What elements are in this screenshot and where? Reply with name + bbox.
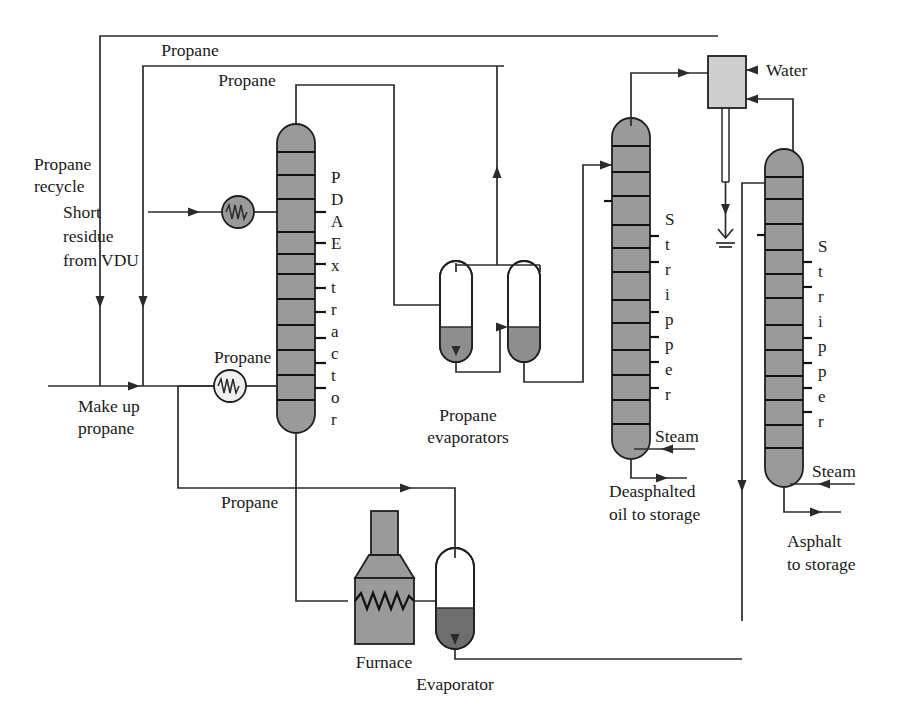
- arrow-left-stripper-right-overhead: [746, 95, 758, 104]
- label-propane-recycle-line2: recycle: [34, 176, 85, 196]
- label-short-residue-line2: residue: [63, 226, 114, 246]
- pipe-stripper-left-overhead: [631, 69, 708, 127]
- pda-letter-3: E: [331, 234, 341, 253]
- pipe-asphalt-feed-to-stripper: [738, 183, 766, 621]
- heat-exchanger-feed: [222, 196, 254, 228]
- label-water: Water: [766, 60, 808, 80]
- pda-letter-6: r: [331, 300, 337, 319]
- pipe-short-residue-feed: [148, 208, 277, 217]
- arrow-right-make-up-propane: [128, 382, 140, 391]
- pda-letter-0: P: [331, 168, 340, 187]
- stripper-left-letter-6: e: [665, 360, 673, 379]
- label-asphalt-line2: to storage: [787, 554, 856, 574]
- label-pda-extractor: P D A E x t r a c t o r: [331, 168, 344, 429]
- label-short-residue-line1: Short: [63, 202, 101, 222]
- pda-letter-4: x: [331, 256, 340, 275]
- label-make-up-propane-line2: propane: [78, 418, 135, 438]
- stripper-left-letter-5: p: [665, 335, 674, 354]
- pda-letter-9: t: [331, 366, 336, 385]
- stripper-right-letter-2: r: [818, 287, 824, 306]
- water-separator: [708, 56, 746, 247]
- pda-letter-2: A: [331, 212, 344, 231]
- stripper-right-letter-4: p: [818, 337, 827, 356]
- arrow-right-asphalt: [810, 508, 822, 517]
- arrow-left-water-inlet: [746, 66, 758, 75]
- label-deasphalted-oil-line2: oil to storage: [609, 504, 701, 524]
- label-short-residue-line3: from VDU: [63, 250, 139, 270]
- stripper-right-letter-6: e: [818, 387, 826, 406]
- stripper-right-letter-3: i: [818, 312, 823, 331]
- stripper-right-letter-5: p: [818, 362, 827, 381]
- label-stripper-left: S t r i p p e r: [665, 210, 674, 404]
- pda-letter-5: t: [331, 278, 336, 297]
- pda-letter-11: r: [331, 410, 337, 429]
- arrow-down-recycle-outer: [96, 296, 105, 308]
- arrow-right-stripper-feed: [600, 161, 612, 170]
- pipe-extractor-overhead: [296, 85, 440, 305]
- arrow-down-water-drain: [721, 204, 730, 215]
- pda-extractor-column: [277, 124, 326, 433]
- label-steam-right: Steam: [812, 461, 856, 481]
- heat-exchanger-propane: [214, 370, 246, 402]
- arrow-up-asphalt-feed: [738, 480, 747, 492]
- label-steam-left: Steam: [655, 426, 699, 446]
- pipe-evaporator-vapour-riser: [493, 66, 502, 265]
- stripper-left-column: [604, 118, 659, 459]
- process-flow-diagram: Propane Propane Propane recycle Short re…: [0, 0, 912, 724]
- pipe-extractor-bottom-outlet: [296, 432, 348, 601]
- label-deasphalted-oil-line1: Deasphalted: [609, 481, 696, 501]
- label-propane-recycle-line1: Propane: [34, 154, 92, 174]
- pipe-bottom-evaporator-liquid: [451, 634, 743, 659]
- stripper-left-letter-4: p: [665, 310, 674, 329]
- arrow-right-short-residue: [188, 208, 200, 217]
- stripper-right-letter-0: S: [818, 237, 827, 256]
- pipe-water-inlet: [746, 66, 758, 75]
- arrow-right-evap-right-in: [496, 323, 508, 332]
- pipe-propane-to-bottom: [178, 386, 342, 488]
- bottom-evaporator: [436, 548, 474, 649]
- stripper-left-letter-3: i: [665, 285, 670, 304]
- label-propane-extractor-feed: Propane: [214, 347, 272, 367]
- label-asphalt-line1: Asphalt: [787, 531, 842, 551]
- arrow-up-evaporator-vapour: [493, 166, 502, 178]
- arrow-right-stripper-left-overhead: [678, 69, 690, 78]
- label-furnace: Furnace: [356, 652, 413, 672]
- pda-letter-1: D: [331, 190, 343, 209]
- stripper-left-letter-1: t: [665, 235, 670, 254]
- stripper-right-column: [757, 149, 812, 487]
- label-propane-evaporators-line2: evaporators: [427, 427, 509, 447]
- furnace: [355, 511, 414, 644]
- label-propane-second: Propane: [218, 70, 276, 90]
- pipe-deasphalted-oil-outlet: [631, 458, 687, 483]
- arrow-down-recycle-second: [139, 296, 148, 308]
- pda-letter-10: o: [331, 388, 340, 407]
- pda-letter-7: a: [331, 322, 339, 341]
- stripper-left-letter-2: r: [665, 260, 671, 279]
- label-stripper-right: S t r i p p e r: [818, 237, 827, 431]
- arrow-left-bottom-propane: [400, 484, 412, 493]
- label-propane-bottom: Propane: [221, 492, 279, 512]
- label-propane-top: Propane: [161, 40, 219, 60]
- stripper-left-letter-7: r: [665, 385, 671, 404]
- stripper-right-letter-7: r: [818, 412, 824, 431]
- pipe-asphalt-outlet: [784, 486, 841, 517]
- label-propane-evaporators-line1: Propane: [439, 405, 497, 425]
- pda-letter-8: c: [331, 344, 339, 363]
- stripper-left-letter-0: S: [665, 210, 674, 229]
- label-evaporator: Evaporator: [416, 674, 494, 694]
- propane-evaporator-right: [508, 261, 540, 362]
- pfd-canvas: Propane Propane Propane recycle Short re…: [0, 0, 912, 724]
- label-make-up-propane-line1: Make up: [78, 396, 140, 416]
- stripper-right-letter-1: t: [818, 262, 823, 281]
